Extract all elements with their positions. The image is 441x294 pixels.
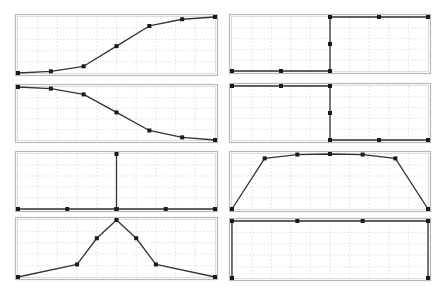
data-point-marker (147, 128, 151, 132)
chart-panel-8 (229, 218, 431, 281)
data-point-marker (426, 15, 430, 19)
data-point-marker (377, 138, 381, 142)
data-point-marker (377, 15, 381, 19)
data-point-marker (230, 276, 234, 280)
line-chart (229, 14, 431, 74)
line-chart (15, 84, 218, 143)
data-point-marker (328, 42, 332, 46)
data-point-marker (154, 262, 158, 266)
data-point-marker (49, 69, 53, 73)
line-chart (229, 218, 431, 281)
data-point-marker (16, 275, 20, 279)
data-point-marker (75, 262, 79, 266)
data-point-marker (328, 69, 332, 73)
data-point-marker (426, 276, 430, 280)
data-point-marker (82, 92, 86, 96)
data-point-marker (16, 207, 20, 211)
data-point-marker (16, 85, 20, 89)
line-chart (229, 83, 431, 143)
data-point-marker (115, 44, 119, 48)
line-chart (15, 217, 218, 280)
line-chart (229, 151, 431, 212)
chart-panel-6 (229, 151, 431, 212)
data-point-marker (393, 156, 397, 160)
data-point-marker (16, 71, 20, 75)
data-point-marker (426, 207, 430, 211)
data-point-marker (295, 153, 299, 157)
data-point-marker (115, 110, 119, 114)
data-point-marker (230, 84, 234, 88)
data-point-marker (361, 153, 365, 157)
data-point-marker (147, 24, 151, 28)
data-point-marker (180, 17, 184, 21)
data-point-marker (115, 207, 119, 211)
chart-panel-4 (229, 83, 431, 143)
chart-panel-1 (15, 14, 218, 76)
data-point-marker (213, 138, 217, 142)
data-point-marker (82, 64, 86, 68)
data-point-marker (115, 152, 119, 156)
data-point-marker (328, 84, 332, 88)
data-point-marker (263, 156, 267, 160)
data-point-marker (361, 219, 365, 223)
plot-frame (230, 152, 431, 212)
line-chart (15, 151, 218, 212)
data-point-marker (65, 207, 69, 211)
data-point-marker (115, 218, 119, 222)
data-point-marker (49, 87, 53, 91)
data-point-marker (230, 69, 234, 73)
data-point-marker (164, 207, 168, 211)
data-point-marker (328, 138, 332, 142)
data-point-marker (279, 84, 283, 88)
data-point-marker (230, 207, 234, 211)
data-point-marker (230, 219, 234, 223)
data-point-marker (328, 111, 332, 115)
chart-panel-2 (229, 14, 431, 74)
data-point-marker (279, 69, 283, 73)
data-point-marker (180, 135, 184, 139)
data-point-marker (328, 152, 332, 156)
data-point-marker (426, 138, 430, 142)
data-point-marker (95, 236, 99, 240)
data-point-marker (328, 15, 332, 19)
chart-panel-7 (15, 217, 218, 280)
chart-panel-5 (15, 151, 218, 212)
line-chart (15, 14, 218, 76)
data-point-marker (295, 219, 299, 223)
data-point-marker (426, 219, 430, 223)
chart-panel-3 (15, 84, 218, 143)
data-point-marker (213, 15, 217, 19)
data-point-marker (213, 207, 217, 211)
data-point-marker (213, 275, 217, 279)
data-point-marker (134, 236, 138, 240)
